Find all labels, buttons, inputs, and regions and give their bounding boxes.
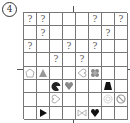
question-cell[interactable]: ? bbox=[37, 26, 50, 39]
empty-cell[interactable] bbox=[37, 80, 50, 93]
flower-gray-icon bbox=[90, 68, 100, 78]
puzzle-grid: ??????????? bbox=[23, 12, 127, 119]
question-cell[interactable]: ? bbox=[76, 53, 89, 66]
trapezoid-black-icon bbox=[103, 81, 113, 91]
puzzle-number-label: 4 bbox=[2, 2, 17, 17]
cell-text: ? bbox=[119, 14, 124, 24]
cell-text: ? bbox=[28, 41, 33, 51]
grid-cell-r7-c1[interactable] bbox=[37, 107, 50, 120]
grid-cell-r6-c2[interactable] bbox=[50, 93, 63, 106]
empty-cell[interactable] bbox=[37, 93, 50, 106]
empty-cell[interactable] bbox=[115, 67, 128, 80]
empty-cell[interactable] bbox=[24, 80, 37, 93]
triangle-right-black-icon bbox=[38, 108, 48, 118]
grid-cell-r6-c6[interactable] bbox=[102, 93, 115, 106]
empty-cell[interactable] bbox=[115, 26, 128, 39]
empty-cell[interactable] bbox=[50, 40, 63, 53]
grid-cell-r5-c2[interactable] bbox=[50, 80, 63, 93]
cell-text: ? bbox=[28, 14, 33, 24]
grid-cell-r5-c6[interactable] bbox=[102, 80, 115, 93]
empty-cell[interactable] bbox=[102, 107, 115, 120]
empty-cell[interactable] bbox=[63, 26, 76, 39]
empty-cell[interactable] bbox=[24, 26, 37, 39]
grid-cell-r4-c1[interactable] bbox=[37, 67, 50, 80]
empty-cell[interactable] bbox=[115, 80, 128, 93]
empty-cell[interactable] bbox=[76, 93, 89, 106]
question-cell[interactable]: ? bbox=[37, 13, 50, 26]
question-cell[interactable]: ? bbox=[24, 13, 37, 26]
empty-cell[interactable] bbox=[50, 13, 63, 26]
grid-cell-r7-c5[interactable] bbox=[89, 107, 102, 120]
empty-cell[interactable] bbox=[24, 93, 37, 106]
empty-cell[interactable] bbox=[102, 53, 115, 66]
empty-cell[interactable] bbox=[102, 67, 115, 80]
empty-cell[interactable] bbox=[89, 26, 102, 39]
empty-cell[interactable] bbox=[76, 26, 89, 39]
empty-cell[interactable] bbox=[63, 13, 76, 26]
question-cell[interactable]: ? bbox=[102, 26, 115, 39]
empty-cell[interactable] bbox=[76, 80, 89, 93]
empty-cell[interactable] bbox=[115, 53, 128, 66]
grid-cell-r7-c4[interactable] bbox=[76, 107, 89, 120]
pacman-black-icon bbox=[51, 81, 61, 91]
heart-gray-icon bbox=[64, 81, 74, 91]
cell-text: ? bbox=[41, 28, 46, 38]
pentagon-outline-icon bbox=[25, 68, 35, 78]
empty-cell[interactable] bbox=[89, 93, 102, 106]
question-cell[interactable]: ? bbox=[89, 13, 102, 26]
heart-outline-left-icon bbox=[77, 68, 87, 78]
empty-cell[interactable] bbox=[102, 13, 115, 26]
empty-cell[interactable] bbox=[63, 67, 76, 80]
question-cell[interactable]: ? bbox=[50, 53, 63, 66]
empty-cell[interactable] bbox=[50, 107, 63, 120]
empty-cell[interactable] bbox=[24, 53, 37, 66]
empty-cell[interactable] bbox=[115, 107, 128, 120]
question-cell[interactable]: ? bbox=[89, 40, 102, 53]
question-cell[interactable]: ? bbox=[115, 13, 128, 26]
grid-cell-r5-c3[interactable] bbox=[63, 80, 76, 93]
cell-text: ? bbox=[93, 14, 98, 24]
no-sign-gray-icon bbox=[116, 94, 126, 104]
cell-text: ? bbox=[80, 54, 85, 64]
empty-cell[interactable] bbox=[63, 53, 76, 66]
empty-cell[interactable] bbox=[76, 40, 89, 53]
empty-cell[interactable] bbox=[89, 53, 102, 66]
empty-cell[interactable] bbox=[76, 13, 89, 26]
heart-outline-right-icon bbox=[51, 94, 61, 104]
empty-cell[interactable] bbox=[89, 80, 102, 93]
cell-text: ? bbox=[41, 14, 46, 24]
empty-cell[interactable] bbox=[50, 67, 63, 80]
empty-cell[interactable] bbox=[63, 93, 76, 106]
empty-cell[interactable] bbox=[37, 40, 50, 53]
grid-cell-r4-c0[interactable] bbox=[24, 67, 37, 80]
empty-cell[interactable] bbox=[37, 53, 50, 66]
question-cell[interactable]: ? bbox=[24, 40, 37, 53]
question-cell[interactable]: ? bbox=[63, 40, 76, 53]
cell-text: ? bbox=[93, 41, 98, 51]
empty-cell[interactable] bbox=[50, 26, 63, 39]
empty-cell[interactable] bbox=[24, 107, 37, 120]
empty-cell[interactable] bbox=[102, 40, 115, 53]
triangle-gray-icon bbox=[38, 68, 48, 78]
empty-cell[interactable] bbox=[115, 40, 128, 53]
heart-black-icon bbox=[90, 108, 100, 118]
grid-cell-r4-c5[interactable] bbox=[89, 67, 102, 80]
bowtie-outline-icon bbox=[77, 108, 87, 118]
cell-text: ? bbox=[106, 28, 111, 38]
cell-text: ? bbox=[54, 54, 59, 64]
grid-cell-r6-c7[interactable] bbox=[115, 93, 128, 106]
cell-text: ? bbox=[67, 41, 72, 51]
circle-pattern-gray-icon bbox=[103, 94, 113, 104]
empty-cell[interactable] bbox=[63, 107, 76, 120]
grid-cell-r4-c4[interactable] bbox=[76, 67, 89, 80]
